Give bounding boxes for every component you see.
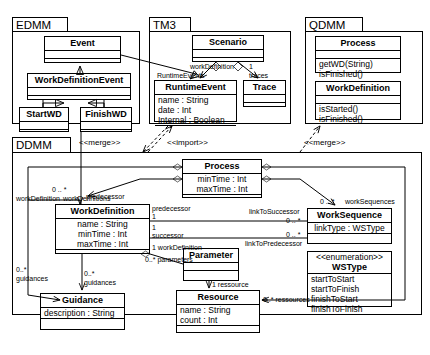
class-attrs-ddmm-workdefinition: name : String minTime : Int maxTime : In… <box>56 219 149 250</box>
label-mult-guidances-left: 0..* <box>16 266 27 274</box>
class-workdefinitionevent[interactable]: WorkDefinitionEvent <box>27 73 131 100</box>
label-runtimeevents: RuntimeEvents <box>157 72 204 80</box>
class-ops-parameter <box>184 271 238 280</box>
op-row: getWD(String) <box>319 59 397 69</box>
op-row: isStarted() <box>319 104 397 114</box>
class-attrs-resource: name : String count : Int <box>177 305 259 326</box>
class-worksequence[interactable]: WorkSequence linkType : WSType <box>307 208 392 244</box>
class-qdmm-workdefinition[interactable]: WorkDefinition isStarted() isFinished() <box>315 81 401 120</box>
package-tab-tm3: TM3 <box>149 17 191 32</box>
label-workdefinition-param: 1 workDefinition <box>152 244 202 252</box>
class-parameter[interactable]: Parameter <box>183 248 239 281</box>
class-attrs-qdmm-process <box>316 51 400 59</box>
class-ddmm-process[interactable]: Process minTime : Int maxTime : Int <box>182 159 262 198</box>
attr-row: minTime : Int <box>59 229 146 239</box>
class-ops-startwd <box>20 130 68 137</box>
label-mult-successor: 1 <box>152 224 156 232</box>
package-tab-qdmm: QDMM <box>305 17 363 32</box>
class-name-trace: Trace <box>244 81 285 95</box>
class-name-wstype: <<enumeration>> WSType <box>308 252 391 274</box>
class-ops-event <box>45 59 120 66</box>
class-attrs-guidance: description : String <box>41 308 124 319</box>
label-mult-guidances-mid: 0..* <box>84 270 95 278</box>
class-resource[interactable]: Resource name : String count : Int <box>176 290 260 333</box>
class-name-qdmm-workdefinition: WorkDefinition <box>316 82 400 96</box>
label-linktopredecessor: linkToPredecessor <box>245 240 302 248</box>
class-name-ddmm-workdefinition: WorkDefinition <box>56 205 149 219</box>
label-mult-predecessor: 1 <box>152 213 156 221</box>
literal-row: finishToStart <box>311 294 388 304</box>
attr-row: Internal : Boolean <box>158 115 233 125</box>
class-scenario[interactable]: Scenario <box>192 35 264 62</box>
label-mult-worksequences: 0 .. * <box>320 198 334 206</box>
label-predecessor: predecessor <box>152 205 191 213</box>
label-guidances-mid: guidances <box>84 279 116 287</box>
class-ops-workdefinitionevent <box>28 96 130 103</box>
label-mult-linktosuccessor: 0 .. * <box>286 217 300 225</box>
class-attrs-runtimeevent: name : String date : Int Internal : Bool… <box>155 95 236 126</box>
class-ops-worksequence <box>308 234 391 243</box>
label-mult-wd-param: 1 <box>152 244 156 251</box>
label-stereotype-import: <<import>> <box>167 139 208 148</box>
class-ops-qdmm-process: getWD(String) isFinished() <box>316 59 400 79</box>
class-name-guidance: Guidance <box>41 294 124 308</box>
class-name-qdmm-process: Process <box>316 37 400 51</box>
class-attrs-qdmm-workdefinition <box>316 96 400 104</box>
label-mult-workdefinition-1: 0 .. * <box>52 186 66 194</box>
class-attrs-ddmm-process: minTime : Int maxTime : Int <box>183 174 261 195</box>
label-linktosuccessor: linkToSuccessor <box>249 208 300 216</box>
class-startwd[interactable]: StartWD <box>19 107 69 132</box>
class-finishwd[interactable]: FinishWD <box>80 107 132 132</box>
class-ops-trace <box>244 103 285 110</box>
label-workdefinition-role: workDefinition <box>16 195 60 203</box>
class-literals-wstype: startToStart startToFinish finishToStart… <box>308 274 391 314</box>
attr-row: name : String <box>59 219 146 229</box>
attr-row: minTime : Int <box>186 174 258 184</box>
class-trace[interactable]: Trace <box>243 80 286 107</box>
class-name-runtimeevent: RuntimeEvent <box>155 81 236 95</box>
label-parameters: 0..* parameters <box>145 256 193 264</box>
class-name-scenario: Scenario <box>193 36 263 50</box>
class-attrs-finishwd <box>81 122 131 130</box>
label-stereotype-merge-2: <<merge>> <box>304 139 345 148</box>
label-mult-ressources: 0..* <box>263 296 274 303</box>
attr-row: name : String <box>158 95 233 105</box>
class-ddmm-workdefinition[interactable]: WorkDefinition name : String minTime : I… <box>55 204 150 254</box>
label-guidances-left: guidances <box>16 275 48 283</box>
label-mult-parameters: 0..* <box>145 256 156 263</box>
class-ops-ddmm-workdefinition <box>56 250 149 257</box>
class-ops-runtimeevent <box>155 126 236 133</box>
class-ops-qdmm-workdefinition: isStarted() isFinished() <box>316 104 400 124</box>
class-attrs-scenario <box>193 50 263 58</box>
class-name-wstype-text: WSType <box>332 262 367 272</box>
label-mult-scenario-traces: 1 <box>249 63 253 71</box>
label-worksequences: workSequences <box>345 198 395 206</box>
class-attrs-parameter <box>184 263 238 271</box>
class-event[interactable]: Event <box>44 36 121 63</box>
attr-row: maxTime : Int <box>186 184 258 194</box>
class-ops-resource <box>177 326 259 333</box>
class-attrs-event <box>45 51 120 59</box>
class-name-resource: Resource <box>177 291 259 305</box>
class-name-finishwd: FinishWD <box>81 108 131 122</box>
attr-row: description : String <box>44 308 121 318</box>
class-guidance[interactable]: Guidance description : String <box>40 293 125 330</box>
attr-row: maxTime : Int <box>59 239 146 249</box>
literal-row: startToFinish <box>311 284 388 294</box>
class-runtimeevent[interactable]: RuntimeEvent name : String date : Int In… <box>154 80 237 122</box>
class-qdmm-process[interactable]: Process getWD(String) isFinished() <box>315 36 401 73</box>
class-name-workdefinitionevent: WorkDefinitionEvent <box>28 74 130 88</box>
package-name-edmm: EDMM <box>16 19 51 31</box>
label-successor: successor <box>152 232 184 240</box>
package-tab-ddmm: DDMM <box>12 137 71 153</box>
class-attrs-workdefinitionevent <box>28 88 130 96</box>
class-ops-finishwd <box>81 130 131 137</box>
op-row: isFinished() <box>319 114 397 124</box>
class-wstype-enumeration[interactable]: <<enumeration>> WSType startToStart star… <box>307 251 392 307</box>
label-parameters-role: parameters <box>157 256 192 263</box>
literal-row: finishToFinish <box>311 304 388 314</box>
class-name-worksequence: WorkSequence <box>308 209 391 223</box>
label-ressources: 0..* ressources <box>263 296 310 304</box>
label-traces: traces <box>249 72 268 80</box>
class-name-ddmm-process: Process <box>183 160 261 174</box>
